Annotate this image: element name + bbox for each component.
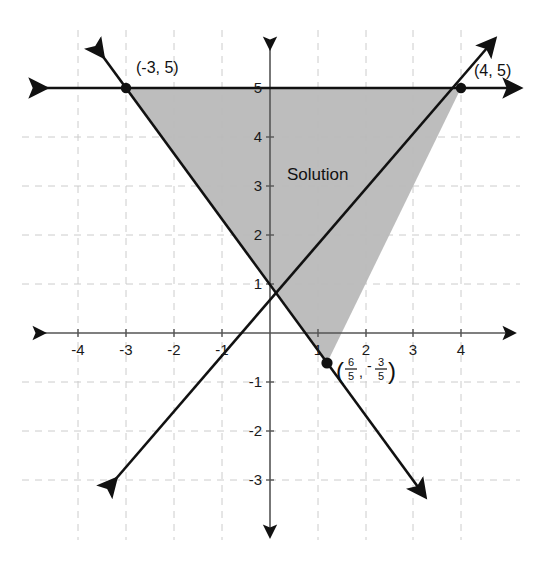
x-tick-label: 2: [362, 341, 370, 358]
solution-region-label: Solution: [287, 165, 348, 184]
x-tick-label: 3: [409, 341, 417, 358]
y-tick-label: 4: [254, 128, 262, 145]
graph-svg: -4 -3 -2 -1 1 2 3 4 5 4 3 2 1 -1 -2 -3 (…: [0, 0, 547, 562]
label-y-denominator: 5: [378, 370, 384, 382]
y-tick-label: 2: [254, 226, 262, 243]
x-tick-label: -2: [167, 341, 180, 358]
label-y-sign: -: [367, 358, 372, 374]
y-tick-label: 5: [254, 79, 262, 96]
x-tick-label: -3: [119, 341, 132, 358]
label-open-paren: (: [336, 357, 344, 384]
y-tick-label: 3: [254, 177, 262, 194]
label-comma: ,: [359, 364, 363, 380]
vertex-point-left: [121, 83, 131, 93]
vertex-label-left: (-3, 5): [136, 59, 179, 76]
y-tick-label: -1: [249, 373, 262, 390]
x-tick-label: 1: [314, 341, 322, 358]
label-close-paren: ): [388, 357, 396, 384]
y-tick-label: -3: [249, 471, 262, 488]
x-tick-label: -4: [71, 341, 84, 358]
label-x-numerator: 6: [348, 356, 354, 368]
label-x-denominator: 5: [348, 370, 354, 382]
vertex-point-intersection: [321, 357, 332, 368]
label-y-numerator: 3: [378, 356, 384, 368]
x-tick-label: -1: [215, 341, 228, 358]
x-tick-label: 4: [457, 341, 465, 358]
vertex-label-right: (4, 5): [474, 62, 511, 79]
coordinate-graph-figure: -4 -3 -2 -1 1 2 3 4 5 4 3 2 1 -1 -2 -3 (…: [0, 0, 547, 562]
y-tick-label: -2: [249, 422, 262, 439]
vertex-point-right: [456, 83, 466, 93]
y-tick-label: 1: [254, 275, 262, 292]
